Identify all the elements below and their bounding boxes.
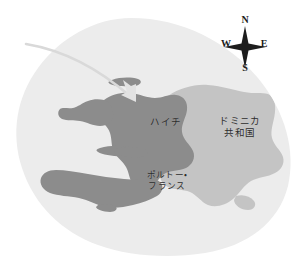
map-illustration: ハイチ ドミニカ共和国 ポルトー・フランス N S W E (0, 0, 307, 275)
map-canvas (0, 0, 307, 275)
